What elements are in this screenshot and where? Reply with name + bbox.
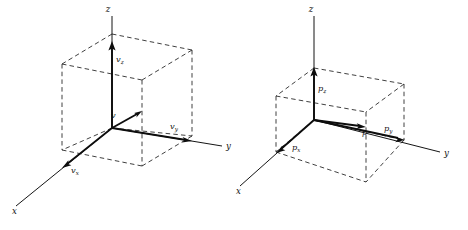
left-panel-group: z y x vz vy vx v: [12, 4, 231, 216]
right-px-label-sub: x: [297, 147, 301, 153]
right-pz-label: pz: [318, 83, 326, 94]
left-vz-label: vz: [116, 54, 124, 65]
left-y-axis-label: y: [225, 141, 231, 151]
left-vz-label-sub: z: [120, 59, 124, 65]
left-vy-vector: [112, 128, 192, 143]
right-y-axis-label: y: [443, 148, 449, 158]
right-x-axis-label: x: [236, 186, 241, 196]
right-panel-group: z y x pz py px p: [236, 4, 449, 196]
left-z-axis-label: z: [105, 4, 111, 14]
left-resultant-vector: [112, 111, 142, 128]
right-px-label: px: [292, 142, 301, 153]
left-dashed-box: [62, 34, 192, 166]
left-vy-label: vy: [170, 121, 179, 133]
left-vx-label: vx: [71, 165, 80, 176]
figure-root: z y x vz vy vx v: [0, 0, 468, 230]
right-py-label-sub: y: [388, 128, 393, 135]
right-resultant-vector: [314, 120, 366, 129]
vector-diagram-svg: z y x vz vy vx v: [0, 0, 468, 230]
left-vx-label-sub: x: [76, 170, 80, 176]
left-resultant-label: v: [111, 110, 116, 120]
left-vx-vector: [62, 128, 112, 168]
right-resultant-label: p: [362, 127, 368, 137]
left-x-axis-label: x: [12, 206, 17, 216]
right-py-label: py: [384, 123, 393, 135]
right-pz-vector: [310, 67, 317, 120]
left-vy-label-sub: y: [174, 126, 179, 133]
right-z-axis-label: z: [308, 4, 314, 14]
right-pz-label-sub: z: [322, 88, 326, 94]
